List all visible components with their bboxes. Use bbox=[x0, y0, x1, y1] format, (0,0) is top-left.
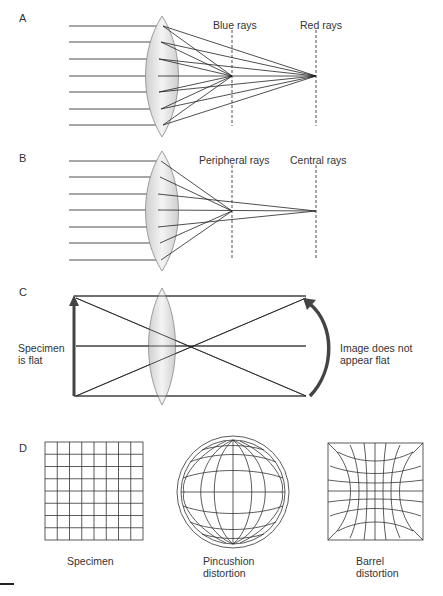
central-rays bbox=[158, 194, 316, 227]
red-rays bbox=[159, 26, 316, 125]
panel-c-diagram bbox=[69, 288, 329, 405]
panel-b-diagram bbox=[69, 151, 316, 271]
specimen-arrow bbox=[69, 295, 79, 396]
barrel-diagram bbox=[328, 443, 423, 540]
pincushion-diagram bbox=[177, 436, 289, 548]
lens-b bbox=[146, 151, 179, 271]
curved-image-arrow bbox=[303, 298, 329, 396]
specimen-grid bbox=[45, 442, 143, 540]
optics-figure bbox=[0, 0, 443, 596]
panel-a-diagram bbox=[69, 16, 316, 137]
lens-a bbox=[146, 16, 179, 137]
lens-c bbox=[149, 288, 176, 405]
